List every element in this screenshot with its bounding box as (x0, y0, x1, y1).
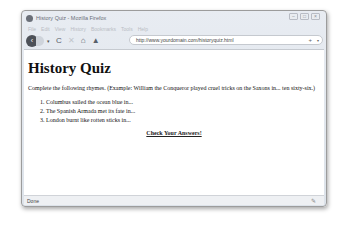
list-item: Columbus sailed the ocean blue in... (46, 98, 320, 107)
url-dropdown-icon[interactable]: ▾ (317, 38, 319, 43)
menu-file[interactable]: File (28, 26, 36, 32)
address-bar[interactable]: http://www.yourdomain.com/historyquiz.ht… (129, 35, 323, 45)
page-content: History Quiz Complete the following rhym… (24, 49, 324, 196)
page-title: History Quiz (28, 60, 320, 77)
feed-icon[interactable]: ▲ (92, 35, 100, 47)
menu-edit[interactable]: Edit (41, 26, 50, 32)
firefox-logo-icon (26, 15, 33, 22)
rhyme-list: Columbus sailed the ocean blue in... The… (28, 98, 320, 125)
close-button[interactable]: × (311, 13, 320, 20)
bookmark-star-icon[interactable]: + (308, 37, 312, 43)
stop-icon[interactable]: ✕ (68, 35, 75, 47)
window-controls: – □ × (289, 13, 320, 20)
forward-button[interactable] (36, 36, 44, 46)
menu-bar: File Edit View History Bookmarks Tools H… (22, 25, 326, 33)
title-bar: History Quiz - Mozilla Firefox – □ × (22, 11, 326, 25)
history-dropdown-icon[interactable]: ▾ (47, 38, 50, 44)
home-icon[interactable]: ⌂ (81, 35, 86, 47)
menu-history[interactable]: History (70, 26, 86, 32)
minimize-button[interactable]: – (289, 13, 298, 20)
menu-help[interactable]: Help (138, 26, 148, 32)
check-answers-link[interactable]: Check Your Answers! (28, 130, 320, 136)
list-item: London burnt like rotten sticks in... (46, 116, 320, 125)
maximize-button[interactable]: □ (300, 13, 309, 20)
reload-icon[interactable]: C (56, 35, 62, 47)
menu-tools[interactable]: Tools (121, 26, 133, 32)
window-title: History Quiz - Mozilla Firefox (36, 15, 106, 21)
list-item: The Spanish Armada met its fate in... (46, 107, 320, 116)
browser-window: History Quiz - Mozilla Firefox – □ × Fil… (21, 10, 327, 207)
status-bar: Done ✎ (24, 195, 324, 205)
status-text: Done (27, 198, 39, 204)
pencil-icon: ✎ (311, 197, 316, 204)
menu-view[interactable]: View (55, 26, 66, 32)
intro-text: Complete the following rhymes. (Example:… (28, 84, 320, 93)
navigation-toolbar: ‹ ▾ C ✕ ⌂ ▲ http://www.yourdomain.com/hi… (22, 33, 326, 48)
menu-bookmarks[interactable]: Bookmarks (91, 26, 116, 32)
url-text[interactable]: http://www.yourdomain.com/historyquiz.ht… (136, 37, 234, 43)
